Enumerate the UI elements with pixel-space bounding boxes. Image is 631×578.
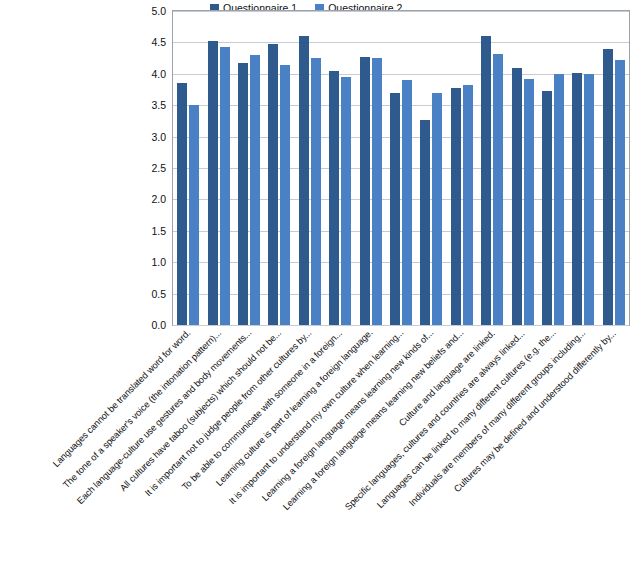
y-tick-label: 1.0 (151, 256, 166, 268)
y-tick-label: 5.0 (151, 5, 166, 17)
y-tick-label: 2.0 (151, 193, 166, 205)
bar (463, 85, 473, 325)
bar (360, 57, 370, 325)
bar (311, 58, 321, 325)
bar (390, 93, 400, 325)
y-axis-tick-labels: 5.04.54.03.53.02.52.01.51.00.50.0 (136, 10, 170, 326)
y-tick-label: 2.5 (151, 162, 166, 174)
bar (329, 71, 339, 325)
bar (268, 44, 278, 325)
bar (572, 73, 582, 326)
bar (493, 54, 503, 325)
bar (512, 68, 522, 326)
y-tick-label: 0.5 (151, 288, 166, 300)
bar (220, 47, 230, 325)
x-axis-category-labels: Languages cannot be translated word for … (0, 326, 631, 578)
bar (299, 36, 309, 325)
bar (554, 74, 564, 325)
bar (208, 41, 218, 325)
x-category-label: Languages cannot be translated word for … (51, 328, 192, 469)
bar (238, 63, 248, 325)
bar-chart: Questionnaire 1 Questionnaire 2 5.04.54.… (0, 0, 631, 578)
bar (341, 77, 351, 325)
bar (524, 79, 534, 325)
bar (189, 105, 199, 325)
bar (280, 65, 290, 325)
y-tick-label: 3.5 (151, 99, 166, 111)
bar (432, 93, 442, 325)
bar (250, 55, 260, 325)
bar (603, 49, 613, 325)
y-tick-label: 1.5 (151, 225, 166, 237)
bar-series-container (173, 11, 629, 325)
bar (372, 58, 382, 325)
bar (402, 80, 412, 325)
bar (584, 74, 594, 325)
bar (451, 88, 461, 325)
y-tick-label: 3.0 (151, 131, 166, 143)
y-tick-label: 4.5 (151, 36, 166, 48)
bar (420, 120, 430, 325)
y-tick-label: 4.0 (151, 68, 166, 80)
plot-area (172, 10, 630, 326)
bar (542, 91, 552, 325)
bar (615, 60, 625, 325)
bar (177, 83, 187, 325)
bar (481, 36, 491, 325)
